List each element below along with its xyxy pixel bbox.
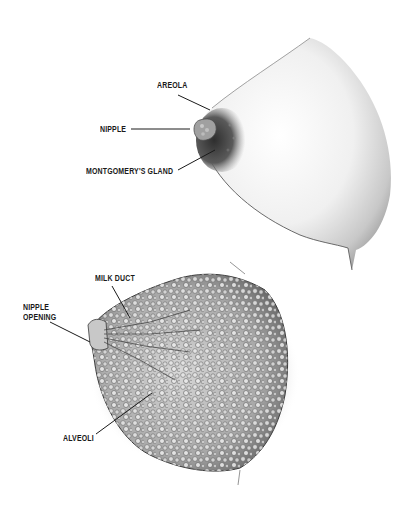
nipple-cross-section (88, 319, 108, 350)
upper-breast-illustration (194, 38, 391, 270)
areola-leader-line (178, 95, 210, 110)
label-milk-duct: MILK DUCT (95, 273, 135, 283)
label-montgomerys-gland: MONTGOMERY'S GLAND (86, 166, 173, 176)
lower-breast-illustration (88, 262, 300, 485)
label-nipple: NIPPLE (100, 124, 126, 134)
label-alveoli: ALVEOLI (63, 433, 94, 443)
nipple-opening-leader-line (50, 322, 90, 342)
label-nipple-opening: NIPPLE OPENING (23, 302, 56, 322)
label-areola: AREOLA (157, 80, 187, 90)
anatomy-illustration (0, 0, 404, 519)
